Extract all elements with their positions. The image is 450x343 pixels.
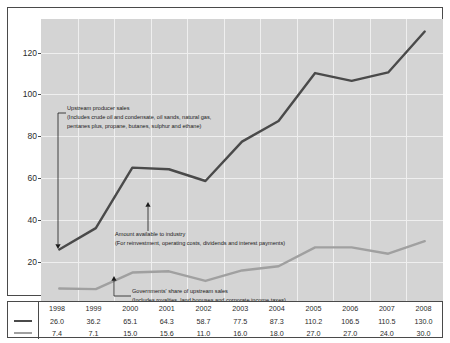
table-cell: 87.3 [259,315,296,327]
annotation-line-2: (Includes crude oil and condensate, oil … [67,113,211,122]
table-row: 7.47.115.015.611.016.018.027.027.024.030… [8,327,442,339]
dark-line-swatch [14,320,32,322]
annotation-line-3: pentanes plus, propane, butanes, sulphur… [67,122,211,131]
annotation-amount-available-to-industry: Amount available to industry (For reinve… [115,230,285,248]
legend-swatch-cell [8,327,39,339]
table-cell: 65.1 [112,315,149,327]
annotation-upstream-producer-sales: Upstream producer sales (Includes crude … [67,104,211,131]
table-cell: 58.7 [185,315,222,327]
table-cell: 27.0 [332,327,369,339]
y-axis-tick-label: 100 [23,89,37,99]
y-axis-tick-label: 40 [28,215,37,225]
table-column-header: 2007 [369,302,406,315]
light-line-swatch [14,332,32,334]
annotation-arrow-1 [145,202,150,207]
y-axis-tick-label: 20 [28,257,37,267]
table-column-header: 2004 [259,302,296,315]
annotation-line-1: Amount available to industry [115,230,285,239]
table-cell: 11.0 [185,327,222,339]
series-line-upstream-producer-sales [59,32,424,250]
table-cell: 16.0 [222,327,259,339]
table-cell: 7.1 [75,327,112,339]
table-cell: 64.3 [149,315,186,327]
table-cell: 15.0 [112,327,149,339]
table-cell: 15.6 [149,327,186,339]
table-cell: 18.0 [259,327,296,339]
table-column-header: 2003 [222,302,259,315]
annotation-line-1: Upstream producer sales [67,104,211,113]
legend-swatch-cell [8,315,39,327]
table-cell: 110.2 [295,315,332,327]
table-cell: 7.4 [39,327,76,339]
y-axis-tick-label: 60 [28,173,37,183]
table-header-row: 1998199920002001200220032004200520062007… [8,302,442,315]
table-cell: 130.0 [405,315,442,327]
table-cell: 77.5 [222,315,259,327]
table-cell: 110.5 [369,315,406,327]
table-column-header: 2005 [295,302,332,315]
series-layer [41,19,443,304]
table-column-header: 2008 [405,302,442,315]
annotation-line-2: (For reinvestment, operating costs, divi… [115,239,285,248]
chart-page: 20406080100120 Upstream producer sales (… [0,0,450,343]
table-column-header: 1999 [75,302,112,315]
y-axis: 20406080100120 [8,8,41,304]
y-axis-tick-label: 80 [28,131,37,141]
table-cell: 27.0 [295,327,332,339]
plot-area: Upstream producer sales (Includes crude … [41,19,443,304]
table-cell: 24.0 [369,327,406,339]
table-cell: 26.0 [39,315,76,327]
y-axis-tick-label: 120 [23,48,37,58]
table-cell: 30.0 [405,327,442,339]
table-legend-corner [8,302,39,315]
table-cell: 36.2 [75,315,112,327]
table-column-header: 2006 [332,302,369,315]
annotation-arrow-2 [111,276,116,281]
table-column-header: 2000 [112,302,149,315]
data-table: 1998199920002001200220032004200520062007… [7,301,443,338]
table-column-header: 2002 [185,302,222,315]
table-row: 26.036.265.164.358.777.587.3110.2106.511… [8,315,442,327]
table-column-header: 2001 [149,302,186,315]
table-column-header: 1998 [39,302,76,315]
annotation-line-1: Governments' share of upstream sales [132,287,286,296]
table-cell: 106.5 [332,315,369,327]
chart-frame: 20406080100120 Upstream producer sales (… [7,7,443,296]
